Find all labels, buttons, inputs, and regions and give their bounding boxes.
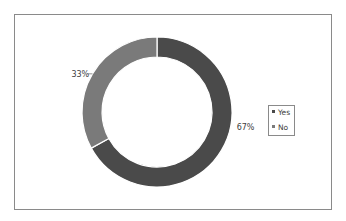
data-label-no: 33% (71, 70, 89, 79)
legend: Yes No (269, 106, 295, 136)
donut-chart: 67% 33% Yes No (0, 0, 346, 221)
legend-label-no: No (278, 123, 289, 132)
slices-group (82, 37, 232, 187)
legend-label-yes: Yes (277, 108, 290, 117)
data-label-yes: 67% (237, 123, 255, 132)
legend-swatch-yes (272, 110, 275, 113)
legend-swatch-no (272, 125, 275, 128)
slice-no (82, 37, 157, 148)
